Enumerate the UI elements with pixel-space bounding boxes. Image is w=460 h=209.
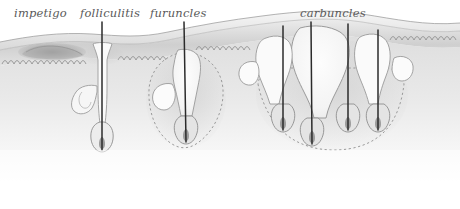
label-carbuncles: carbuncles [300,6,366,20]
impetigo-lesion [18,43,86,61]
hair-shaft-carbuncle-2 [311,22,312,144]
label-impetigo: impetigo [14,6,67,20]
diagram-canvas [0,0,460,209]
skin-infection-diagram: impetigo folliculitis furuncles carbuncl… [0,0,460,209]
label-furuncles: furuncles [150,6,207,20]
label-folliculitis: folliculitis [80,6,140,20]
